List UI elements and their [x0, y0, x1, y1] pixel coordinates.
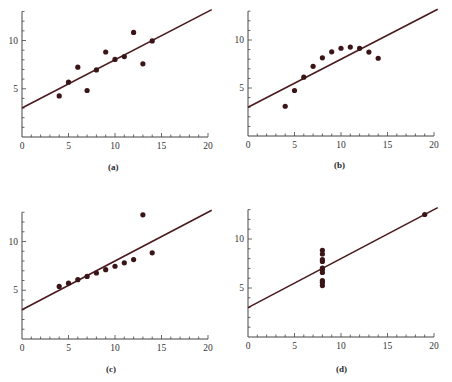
x-tick-label: 10 — [110, 343, 120, 353]
x-tick-label: 0 — [20, 343, 25, 353]
data-point — [66, 80, 71, 85]
x-tick-label: 20 — [429, 341, 439, 351]
data-point — [150, 250, 155, 255]
data-point — [122, 54, 127, 59]
data-point — [329, 49, 334, 54]
y-tick-label: 10 — [9, 237, 19, 247]
data-point — [57, 93, 62, 98]
data-point — [150, 38, 155, 43]
data-point — [103, 267, 108, 272]
x-tick-label: 10 — [336, 140, 346, 150]
y-tick-label: 10 — [9, 36, 19, 46]
data-point — [357, 46, 362, 51]
x-tick-label: 15 — [157, 141, 167, 151]
data-point — [131, 257, 136, 262]
panel-caption-c: (c) — [106, 364, 116, 374]
scatter-plot-c: 05101520510 — [0, 191, 226, 382]
data-point — [338, 46, 343, 51]
y-tick-label: 10 — [235, 234, 245, 244]
panel-caption-a: (a) — [108, 162, 119, 172]
data-point — [103, 49, 108, 54]
panel-d: 05101520510 (d) — [226, 191, 452, 382]
data-point — [94, 67, 99, 72]
data-point — [320, 280, 325, 285]
panel-caption-b: (b) — [334, 160, 345, 170]
data-point — [320, 267, 325, 272]
data-point — [140, 61, 145, 66]
x-tick-label: 5 — [66, 141, 71, 151]
data-point — [75, 277, 80, 282]
data-point — [320, 251, 325, 256]
axes — [22, 12, 208, 137]
data-point — [366, 49, 371, 54]
x-tick-label: 15 — [383, 140, 393, 150]
y-tick-label: 5 — [13, 285, 18, 295]
scatter-plot-d: 05101520510 — [226, 191, 452, 382]
regression-line — [22, 210, 212, 309]
data-point — [85, 88, 90, 93]
axes — [22, 212, 208, 339]
data-point — [112, 264, 117, 269]
data-point — [131, 30, 136, 35]
panel-b: 05101520510 (b) — [226, 0, 452, 191]
panel-a: 05101520510 (a) — [0, 0, 226, 191]
x-tick-label: 5 — [66, 343, 71, 353]
x-tick-label: 0 — [20, 141, 25, 151]
data-point — [348, 45, 353, 50]
data-point — [85, 274, 90, 279]
x-tick-label: 20 — [429, 140, 439, 150]
x-tick-label: 5 — [292, 341, 297, 351]
x-tick-label: 20 — [203, 343, 213, 353]
axes — [248, 210, 434, 337]
axes — [248, 11, 434, 136]
x-tick-label: 20 — [203, 141, 213, 151]
y-tick-label: 10 — [235, 35, 245, 45]
panel-c: 05101520510 (c) — [0, 191, 226, 382]
x-tick-label: 0 — [246, 140, 251, 150]
data-point — [122, 260, 127, 265]
x-tick-label: 0 — [246, 341, 251, 351]
data-point — [112, 57, 117, 62]
regression-line — [248, 9, 438, 107]
data-point — [94, 270, 99, 275]
data-point — [57, 284, 62, 289]
data-point — [75, 65, 80, 70]
data-point — [320, 257, 325, 262]
anscombe-quartet-figure: 05101520510 (a) 05101520510 (b) 05101520… — [0, 0, 452, 382]
y-tick-label: 5 — [239, 83, 244, 93]
data-point — [376, 56, 381, 61]
data-point — [311, 64, 316, 69]
data-point — [283, 104, 288, 109]
x-tick-label: 15 — [383, 341, 393, 351]
data-point — [292, 88, 297, 93]
panel-caption-d: (d) — [336, 364, 347, 374]
x-tick-label: 15 — [157, 343, 167, 353]
y-tick-label: 5 — [13, 84, 18, 94]
data-point — [320, 55, 325, 60]
x-tick-label: 10 — [110, 141, 120, 151]
data-point — [301, 75, 306, 80]
regression-line — [248, 208, 438, 308]
x-tick-label: 5 — [292, 140, 297, 150]
x-tick-label: 10 — [336, 341, 346, 351]
y-tick-label: 5 — [239, 283, 244, 293]
data-point — [66, 281, 71, 286]
data-point — [422, 212, 427, 217]
data-point — [140, 212, 145, 217]
